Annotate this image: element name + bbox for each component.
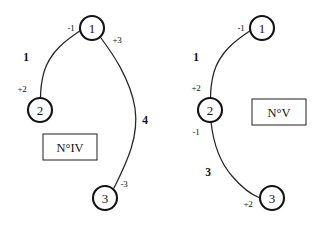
port-label-1-2-head: +2	[17, 84, 26, 94]
edge-2-3	[211, 122, 260, 198]
node-1-label: 1	[259, 21, 266, 36]
port-label-1-3-tail: +3	[112, 35, 122, 45]
port-label-1-3-head: -3	[120, 179, 128, 189]
node-1-label: 1	[89, 21, 96, 36]
caption-label: N°IV	[56, 141, 83, 155]
edge-1-3	[101, 38, 136, 188]
edge-weight-1-2: 1	[23, 51, 29, 63]
graph-figure: 1 4 -1 +2 +3 -3 1 2 3 N°IV 1 3 -1 +2 -1 …	[0, 0, 322, 230]
port-label-1-2-tail: -1	[67, 23, 74, 33]
port-label-1-2-head: +2	[191, 83, 200, 93]
port-label-2-3-tail: -1	[192, 127, 199, 137]
caption-label: N°V	[267, 106, 290, 120]
edge-weight-1-2: 1	[193, 51, 199, 63]
edge-weight-2-3: 3	[205, 166, 211, 178]
edge-1-2	[41, 31, 81, 99]
node-2-label: 2	[37, 103, 44, 118]
node-3-label: 3	[269, 191, 276, 206]
node-2-label: 2	[207, 103, 214, 118]
node-3-label: 3	[102, 191, 109, 206]
diagram-v: 1 3 -1 +2 -1 +2 1 2 3 N°V	[191, 16, 306, 210]
port-label-1-2-tail: -1	[237, 23, 244, 33]
graph-canvas: 1 4 -1 +2 +3 -3 1 2 3 N°IV 1 3 -1 +2 -1 …	[0, 0, 322, 230]
edge-weight-1-3: 4	[142, 114, 148, 126]
diagram-iv: 1 4 -1 +2 +3 -3 1 2 3 N°IV	[17, 16, 148, 210]
edge-1-2	[211, 31, 251, 99]
port-label-2-3-head: +2	[243, 199, 252, 209]
